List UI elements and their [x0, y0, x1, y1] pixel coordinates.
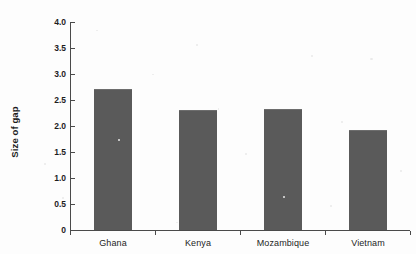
y-tick-label: 2.0: [54, 121, 66, 131]
bar-chart-figure: ......... Size of gap 00.51.01.52.02.53.…: [0, 0, 416, 254]
x-tick: [155, 231, 156, 235]
y-tick: 1.0: [71, 178, 75, 179]
y-tick: 0: [71, 230, 75, 231]
x-tick: [70, 231, 71, 235]
cropped-title-remnant: .........: [0, 0, 416, 5]
x-axis-label-mozambique: Mozambique: [257, 238, 310, 248]
y-tick-label: 0.5: [54, 199, 66, 209]
y-tick: 4.0: [71, 22, 75, 23]
x-axis-label-ghana: Ghana: [99, 238, 127, 248]
x-tick: [240, 231, 241, 235]
y-tick: 1.5: [71, 152, 75, 153]
bar-vietnam: [349, 130, 387, 230]
y-axis-title: Size of gap: [9, 92, 20, 172]
y-tick-label: 3.0: [54, 69, 66, 79]
y-tick-label: 2.5: [54, 95, 66, 105]
bar-mozambique: [264, 109, 302, 230]
y-tick: 0.5: [71, 204, 75, 205]
bar-kenya: [179, 110, 217, 230]
y-tick-label: 1.0: [54, 173, 66, 183]
y-tick-label: 3.5: [54, 43, 66, 53]
x-axis-label-kenya: Kenya: [185, 238, 211, 248]
plot-area: 00.51.01.52.02.53.03.54.0 GhanaKenyaMoza…: [70, 22, 410, 230]
y-tick: 2.5: [71, 100, 75, 101]
scan-speck: [44, 163, 46, 165]
x-tick: [325, 231, 326, 235]
y-tick: 3.5: [71, 48, 75, 49]
x-tick: [410, 231, 411, 235]
bar-ghana: [94, 89, 132, 230]
y-tick-label: 4.0: [54, 17, 66, 27]
y-tick-label: 1.5: [54, 147, 66, 157]
x-axis-label-vietnam: Vietnam: [351, 238, 385, 248]
y-tick: 2.0: [71, 126, 75, 127]
y-tick: 3.0: [71, 74, 75, 75]
cropped-title-text: .........: [22, 0, 53, 1]
y-tick-label: 0: [61, 225, 66, 235]
